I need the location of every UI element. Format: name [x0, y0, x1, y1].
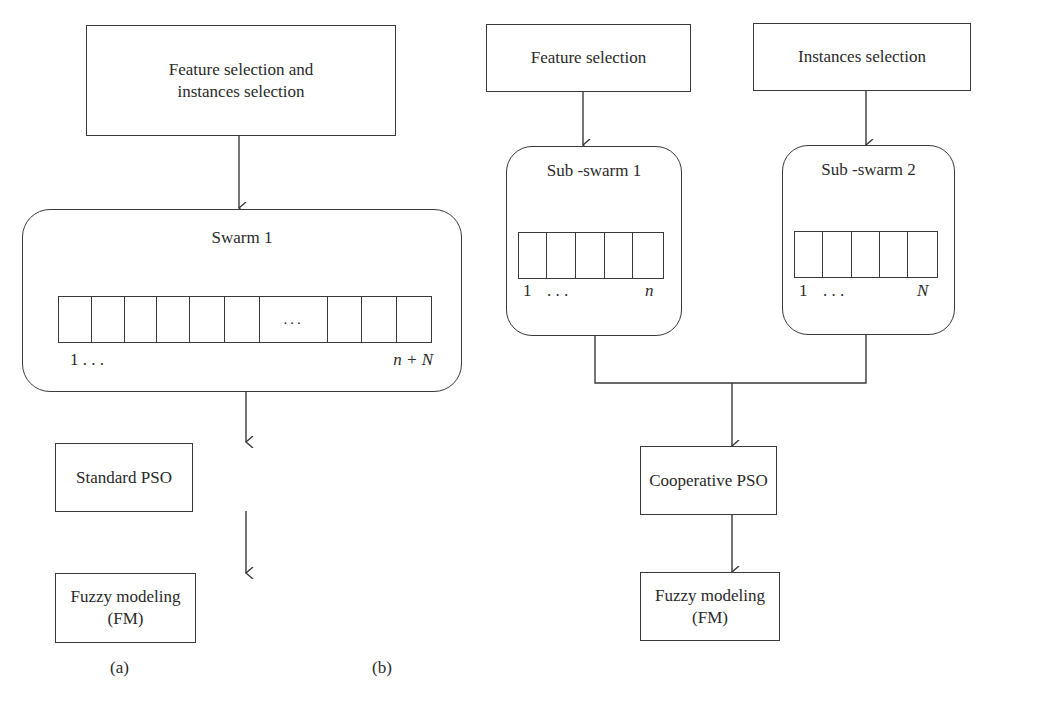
instances-selection-box: Instances selection	[753, 23, 971, 91]
sub-swarm-2-container: Sub -swarm 2 1 . . . N	[782, 145, 955, 335]
sub-swarm-1-particle-array	[518, 232, 664, 279]
particle-cell	[880, 232, 908, 277]
particle-cell	[59, 297, 92, 342]
swarm-title: Swarm 1	[23, 228, 461, 248]
particle-cell	[125, 297, 157, 342]
index-dots-label: . . .	[547, 281, 568, 301]
fuzzy-modeling-label: Fuzzy modeling (FM)	[56, 586, 195, 630]
particle-cell	[92, 297, 125, 342]
index-start-label: 1 . . .	[70, 350, 104, 370]
particle-cell	[633, 233, 663, 278]
particle-cell	[190, 297, 225, 342]
cooperative-pso-box: Cooperative PSO	[640, 446, 777, 515]
index-start-label: 1	[799, 281, 808, 301]
particle-cell	[852, 232, 880, 277]
particle-cell	[605, 233, 633, 278]
instances-selection-label: Instances selection	[798, 46, 926, 68]
index-start-label: 1	[523, 281, 532, 301]
fuzzy-modeling-box-a: Fuzzy modeling (FM)	[55, 573, 196, 643]
particle-cell	[823, 232, 852, 277]
index-end-label: N	[917, 281, 928, 301]
sub-swarm-2-particle-array	[794, 231, 938, 278]
caption-a: (a)	[110, 658, 129, 678]
particle-cell	[547, 233, 576, 278]
sub-swarm-1-container: Sub -swarm 1 1 . . . n	[506, 146, 682, 336]
standard-pso-box-label-wrap: Standard PSO	[55, 443, 193, 512]
sub-swarm-1-title: Sub -swarm 1	[507, 161, 681, 181]
standard-pso-label: Standard PSO	[76, 467, 172, 489]
particle-cell	[908, 232, 937, 277]
index-dots-label: . . .	[823, 281, 844, 301]
cooperative-pso-label: Cooperative PSO	[649, 470, 768, 492]
particle-cell	[328, 297, 362, 342]
box-label-line1: Feature selection and	[169, 59, 313, 81]
feature-selection-label: Feature selection	[531, 47, 647, 69]
particle-cell	[397, 297, 431, 342]
feature-selection-box: Feature selection	[486, 24, 691, 92]
box-label-line2: instances selection	[178, 81, 305, 103]
particle-cell	[519, 233, 547, 278]
index-end-label: n	[645, 281, 654, 301]
particle-cell	[157, 297, 190, 342]
caption-b: (b)	[372, 658, 392, 678]
particle-cell	[225, 297, 260, 342]
index-end-label: n + N	[393, 350, 433, 370]
particle-cell	[795, 232, 823, 277]
feature-and-instances-selection-box: Feature selection and instances selectio…	[86, 25, 396, 136]
particle-cell	[576, 233, 605, 278]
fuzzy-modeling-box-b: Fuzzy modeling (FM)	[640, 572, 780, 641]
swarm-particle-array: ...	[58, 296, 432, 343]
sub-swarm-2-title: Sub -swarm 2	[783, 160, 954, 180]
particle-cell	[362, 297, 397, 342]
fuzzy-modeling-label: Fuzzy modeling (FM)	[641, 585, 779, 629]
particle-cell-ellipsis: ...	[260, 297, 328, 342]
swarm-1-container: Swarm 1 ... 1 . . . n + N	[22, 209, 462, 392]
